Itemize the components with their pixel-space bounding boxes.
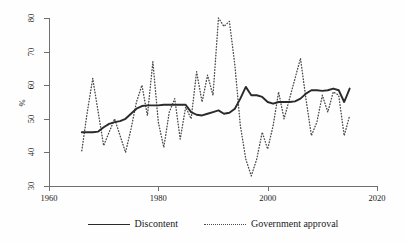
y-tick-label: 50 (20, 113, 42, 125)
chart-figure: % 304050607080 1960198020002020 Disconte… (0, 0, 407, 243)
chart-legend: Discontent Government approval (49, 215, 377, 233)
y-tick-label: 60 (20, 79, 42, 91)
x-axis-line (49, 186, 377, 187)
legend-label-discontent: Discontent (135, 218, 178, 230)
legend-entry-government-approval: Government approval (204, 218, 338, 230)
series-canvas (49, 18, 377, 186)
legend-entry-discontent: Discontent (88, 218, 178, 230)
x-tick-mark (268, 186, 269, 191)
x-tick-label: 2000 (248, 193, 288, 203)
x-tick-label: 1960 (29, 193, 69, 203)
x-tick-mark (49, 186, 50, 191)
dotted-line-key-icon (204, 224, 246, 225)
x-tick-mark (377, 186, 378, 191)
y-tick-label: 80 (20, 12, 42, 24)
y-tick-label: 30 (20, 180, 42, 192)
x-tick-label: 1980 (138, 193, 178, 203)
plot-area (49, 18, 377, 186)
series-line-government-approval (82, 18, 350, 176)
x-tick-label: 2020 (357, 193, 397, 203)
y-tick-label: 40 (20, 146, 42, 158)
legend-label-government-approval: Government approval (251, 218, 338, 230)
x-tick-mark (158, 186, 159, 191)
solid-line-key-icon (88, 224, 130, 225)
y-tick-label: 70 (20, 46, 42, 58)
